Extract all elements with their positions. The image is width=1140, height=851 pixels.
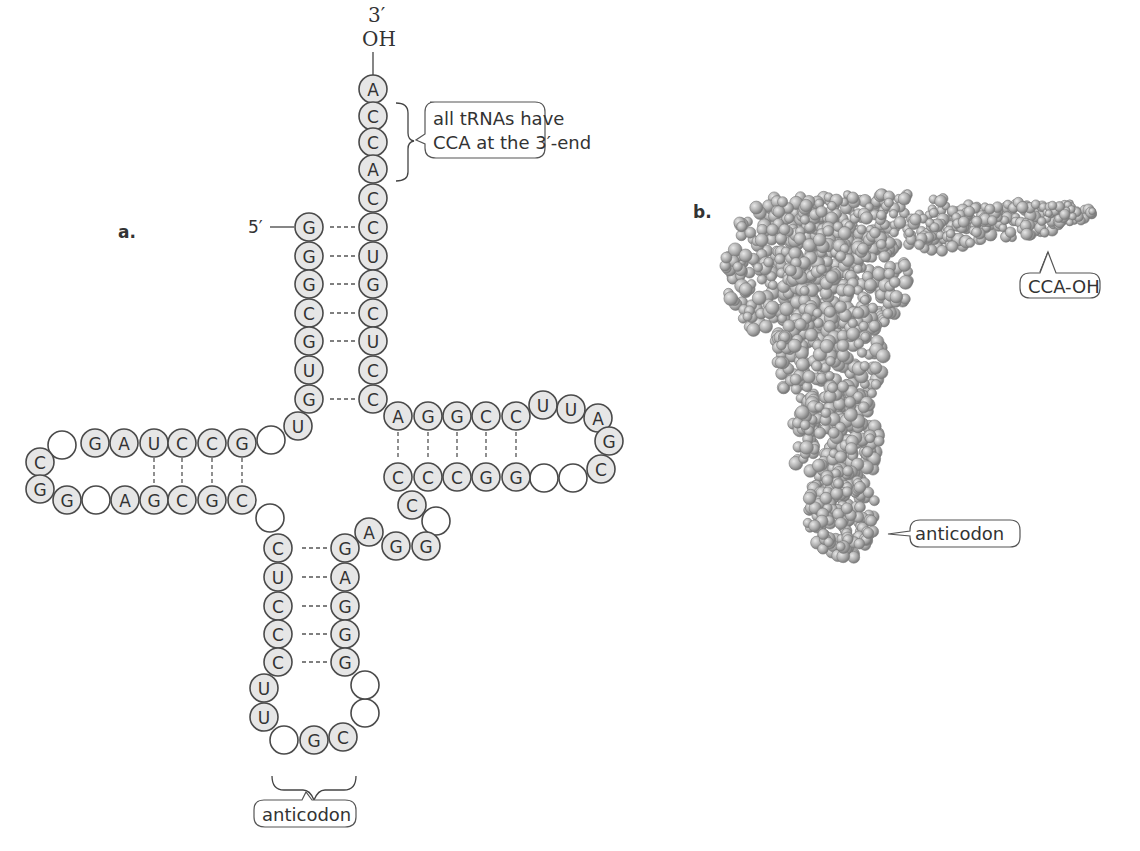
svg-text:A: A [339, 568, 351, 588]
svg-text:G: G [235, 434, 248, 454]
nt-t-loop [530, 464, 558, 492]
nt-anticodon-stem-left: C [264, 534, 292, 562]
oh-group-label: OH [362, 27, 396, 51]
svg-text:U: U [367, 247, 379, 267]
svg-text:C: C [34, 453, 46, 473]
nt-acceptor-3: A [359, 155, 387, 183]
svg-text:C: C [367, 218, 379, 238]
svg-text:G: G [338, 597, 351, 617]
nt-anticodon-stem-left: C [264, 648, 292, 676]
anticodon-bracket [272, 776, 356, 800]
nt-acceptor-3: C [359, 128, 387, 156]
nt-variable [422, 507, 450, 535]
nt-variable: C [398, 491, 426, 519]
nt-d-arm-bottom: G [198, 486, 226, 514]
nt-variable: G [412, 532, 440, 560]
nt-anticodon-stem-right: G [331, 648, 359, 676]
svg-text:C: C [406, 496, 418, 516]
svg-text:G: G [421, 407, 434, 427]
svg-text:C: C [451, 468, 463, 488]
nt-anticodon-stem-left: C [264, 592, 292, 620]
svg-text:C: C [272, 597, 284, 617]
nt-acceptor-3: U [359, 327, 387, 355]
svg-text:G: G [509, 468, 522, 488]
svg-text:C: C [595, 460, 607, 480]
nt-acceptor-3: C [359, 184, 387, 212]
svg-text:G: G [88, 434, 101, 454]
nt-anticodon-loop: G [300, 726, 328, 754]
svg-text:U: U [148, 434, 160, 454]
nt-d-arm-bottom: C [168, 486, 196, 514]
nt-variable: A [355, 518, 383, 546]
nt-anticodon-loop: U [250, 674, 278, 702]
nt-acceptor-5: G [295, 270, 323, 298]
cca-callout-line2: CCA at the 3′-end [433, 132, 591, 153]
nt-connector: U [284, 412, 312, 440]
nt-t-arm-bottom: G [502, 463, 530, 491]
svg-text:C: C [206, 434, 218, 454]
nt-anticodon-stem-right: G [331, 534, 359, 562]
svg-text:A: A [592, 409, 604, 429]
svg-text:G: G [147, 491, 160, 511]
nt-variable: G [382, 532, 410, 560]
svg-text:C: C [392, 468, 404, 488]
nt-acceptor-3: C [359, 102, 387, 130]
d-arm-bonds [154, 458, 242, 484]
nt-acceptor-3: C [359, 385, 387, 413]
nt-acceptor-5: G [295, 213, 323, 241]
cca-bracket [396, 103, 414, 181]
five-prime-label: 5′ [248, 217, 263, 237]
nt-t-loop [559, 464, 587, 492]
nt-acceptor-5: U [295, 356, 323, 384]
nt-d-arm-top: G [81, 429, 109, 457]
cca-callout-line1: all tRNAs have [433, 108, 564, 129]
svg-text:G: G [302, 275, 315, 295]
nt-t-arm-top: A [384, 402, 412, 430]
svg-text:G: G [302, 332, 315, 352]
svg-text:C: C [367, 133, 379, 153]
nt-t-loop: G [595, 427, 623, 455]
three-prime-label: 3′ [368, 3, 386, 27]
nt-acceptor-3: C [359, 213, 387, 241]
panel-b-label: b. [693, 202, 712, 222]
nt-t-loop: U [529, 391, 557, 419]
nt-anticodon-loop [351, 671, 379, 699]
nt-d-arm-top: C [198, 429, 226, 457]
nt-anticodon-loop: C [329, 723, 357, 751]
nt-t-arm-bottom: C [443, 463, 471, 491]
svg-text:C: C [337, 728, 349, 748]
svg-text:G: G [338, 539, 351, 559]
nt-anticodon-stem-right: A [331, 563, 359, 591]
svg-text:C: C [176, 434, 188, 454]
nt-d-arm-end [256, 504, 284, 532]
nt-d-arm-top: C [168, 429, 196, 457]
svg-text:C: C [272, 539, 284, 559]
svg-text:A: A [392, 407, 404, 427]
svg-text:G: G [389, 537, 402, 557]
svg-text:C: C [367, 107, 379, 127]
nt-anticodon-stem-right: G [331, 592, 359, 620]
anticodon-stem-bonds [302, 548, 327, 662]
nt-acceptor-3: U [359, 242, 387, 270]
svg-text:A: A [119, 491, 131, 511]
nt-acceptor-3: G [359, 270, 387, 298]
nt-t-loop: U [557, 395, 585, 423]
svg-text:G: G [33, 480, 46, 500]
svg-text:A: A [367, 80, 379, 100]
cca-oh-label: CCA-OH [1028, 276, 1100, 297]
svg-text:G: G [205, 491, 218, 511]
svg-text:U: U [272, 568, 284, 588]
acceptor-stem-bonds [330, 227, 355, 399]
nt-anticodon-stem-right: G [331, 620, 359, 648]
svg-text:C: C [272, 653, 284, 673]
svg-text:U: U [258, 679, 270, 699]
svg-text:C: C [480, 407, 492, 427]
svg-text:C: C [367, 361, 379, 381]
nt-d-arm-top: G [228, 429, 256, 457]
svg-text:G: G [302, 247, 315, 267]
nt-acceptor-3: C [359, 299, 387, 327]
nt-d-arm-top [257, 426, 285, 454]
anticodon-label-a: anticodon [262, 804, 351, 825]
svg-text:A: A [367, 160, 379, 180]
trna-3d-model [720, 189, 1097, 563]
